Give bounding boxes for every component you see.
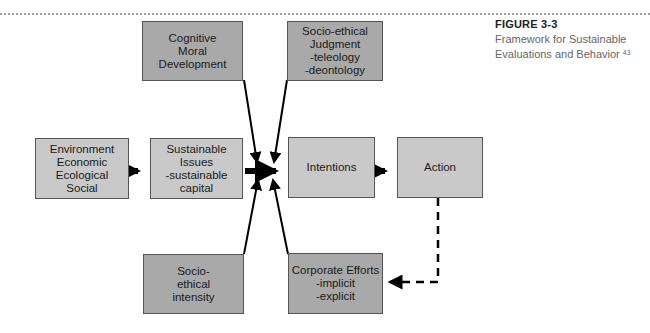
box-text: Socio-ethical bbox=[302, 25, 368, 38]
box-text: Social bbox=[50, 182, 115, 195]
box-text: -deontology bbox=[302, 64, 368, 77]
box-text: Sustainable bbox=[165, 143, 227, 156]
box-text: Environment bbox=[50, 143, 115, 156]
box-text: Moral bbox=[159, 45, 227, 58]
box-socio-ethical-intensity: Socio- ethical intensity bbox=[143, 254, 244, 314]
box-intentions: Intentions bbox=[288, 137, 375, 198]
box-text: Intentions bbox=[307, 161, 357, 174]
box-text: intensity bbox=[172, 291, 214, 304]
box-text: Corporate Efforts bbox=[292, 264, 379, 277]
box-environment: Environment Economic Ecological Social bbox=[35, 138, 129, 199]
box-text: Cognitive bbox=[159, 32, 227, 45]
box-text: capital bbox=[165, 182, 227, 195]
box-text: ethical bbox=[172, 278, 214, 291]
box-text: -explicit bbox=[292, 290, 379, 303]
arrow-cognitive-to-main bbox=[244, 80, 257, 162]
box-text: Issues bbox=[165, 156, 227, 169]
box-text: Socio- bbox=[172, 265, 214, 278]
box-text: Ecological bbox=[50, 169, 115, 182]
box-cognitive-moral-development: Cognitive Moral Development bbox=[142, 21, 243, 81]
box-text: -teleology bbox=[302, 51, 368, 64]
box-text: -implicit bbox=[292, 277, 379, 290]
arrow-corporate-to-main bbox=[273, 180, 288, 254]
feedback-dashed-arrow bbox=[390, 198, 438, 282]
arrow-intensity-to-main bbox=[244, 180, 258, 254]
box-action: Action bbox=[397, 137, 483, 198]
box-text: Action bbox=[424, 161, 456, 174]
box-text: Development bbox=[159, 58, 227, 71]
box-corporate-efforts: Corporate Efforts -implicit -explicit bbox=[288, 253, 383, 314]
box-text: Judgment bbox=[302, 38, 368, 51]
box-text: -sustainable bbox=[165, 169, 227, 182]
box-socio-ethical-judgment: Socio-ethical Judgment -teleology -deont… bbox=[287, 21, 383, 81]
arrow-judgment-to-main bbox=[274, 80, 287, 162]
box-text: Economic bbox=[50, 156, 115, 169]
box-sustainable-issues: Sustainable Issues -sustainable capital bbox=[150, 138, 243, 199]
